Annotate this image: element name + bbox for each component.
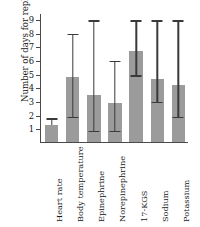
y-tick-mark (36, 116, 41, 117)
y-tick-mark (36, 20, 41, 21)
x-tick-label: Heart rate (55, 178, 63, 222)
error-bar-cap-lower (67, 117, 78, 118)
error-bar-cap-upper (131, 20, 142, 21)
bar (45, 125, 59, 142)
error-bar-cap-upper (110, 61, 121, 62)
y-tick-label: 3 (29, 98, 34, 106)
plot-area: 123456789 (40, 14, 188, 143)
y-tick-label: 6 (29, 57, 34, 65)
y-tick-mark (36, 61, 41, 62)
error-bar-line (114, 61, 115, 131)
error-bar-cap-upper (88, 20, 99, 21)
y-tick-label: 1 (29, 125, 34, 133)
error-bar-cap-lower (110, 131, 121, 132)
bar-chart-figure: Number of days for rephasal 123456789 He… (0, 0, 200, 227)
error-bar-cap-upper (152, 20, 163, 21)
y-tick-label: 8 (29, 30, 34, 38)
x-axis-line (40, 142, 188, 143)
y-tick-mark (36, 88, 41, 89)
x-tick-label: Epinephrine (97, 171, 105, 222)
y-tick-label: 9 (29, 16, 34, 24)
error-bar-cap-upper (67, 34, 78, 35)
y-tick-mark (36, 34, 41, 35)
error-bar-line (178, 20, 179, 117)
x-tick-label: 17-KGS (140, 191, 148, 222)
x-tick-label: Norepinephrine (118, 156, 126, 222)
y-tick-mark (36, 47, 41, 48)
error-bar-cap-lower (152, 102, 163, 103)
y-tick-label: 2 (29, 111, 34, 119)
error-bar-cap-lower (173, 117, 184, 118)
error-bar-cap-lower (131, 75, 142, 76)
error-bar-cap-upper (173, 20, 184, 21)
x-tick-label: Sodium (161, 191, 169, 222)
y-tick-mark (36, 75, 41, 76)
error-bar-line (93, 20, 94, 131)
error-bar-cap-upper (46, 118, 57, 119)
y-tick-label: 5 (29, 71, 34, 79)
y-tick-label: 4 (29, 84, 34, 92)
y-tick-mark (36, 129, 41, 130)
x-tick-label: Body temperature (76, 146, 84, 222)
error-bar-line (135, 20, 136, 75)
y-tick-label: 7 (29, 43, 34, 51)
error-bar-line (72, 34, 73, 117)
x-axis-tick-labels: Heart rateBody temperatureEpinephrineNor… (40, 148, 188, 224)
y-tick-mark (36, 102, 41, 103)
x-tick-label: Potassium (182, 180, 190, 222)
error-bar-line (157, 20, 158, 102)
error-bar-cap-lower (88, 131, 99, 132)
